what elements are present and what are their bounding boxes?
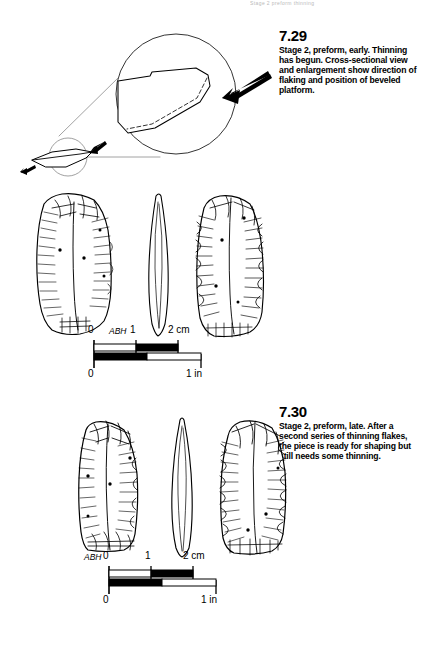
figure-7-30-artwork: ABH — [0, 398, 427, 646]
running-head: Stage 2 preform thinning — [250, 0, 420, 7]
artifact-7-30-reverse — [220, 421, 286, 555]
scale-bar-7-30: 0 1 2 cm 0 1 in — [103, 550, 253, 606]
scale-metric-label-1: 1 — [130, 324, 136, 335]
direction-arrow-small-right — [89, 141, 107, 154]
scale-metric-label-2: 2 cm — [168, 324, 190, 335]
scale-bar-7-29: 0 1 2 cm 0 1 in — [88, 324, 238, 380]
cross-section-small — [32, 138, 92, 176]
figure-7-30: 7.30 Stage 2, preform, late. After a sec… — [0, 398, 427, 646]
scale-metric-label-0: 0 — [88, 324, 94, 335]
artifact-7-29-profile — [149, 194, 168, 336]
book-page: Stage 2 preform thinning 7.29 Stage 2, p… — [0, 0, 427, 646]
scale-metric-label-2: 2 cm — [183, 550, 205, 561]
scale-metric-label-1: 1 — [145, 550, 151, 561]
scale-metric-label-0: 0 — [103, 550, 109, 561]
direction-arrow-small-left — [20, 165, 36, 175]
figure-7-29: 7.29 Stage 2, preform, early. Thinning h… — [0, 18, 427, 398]
artifact-7-29-obverse — [37, 194, 113, 335]
artifact-7-30-profile — [172, 418, 192, 557]
artifact-7-30-obverse — [79, 421, 138, 552]
artist-signature-7-30: ABH — [83, 552, 102, 562]
artifact-7-29-reverse — [196, 196, 264, 337]
